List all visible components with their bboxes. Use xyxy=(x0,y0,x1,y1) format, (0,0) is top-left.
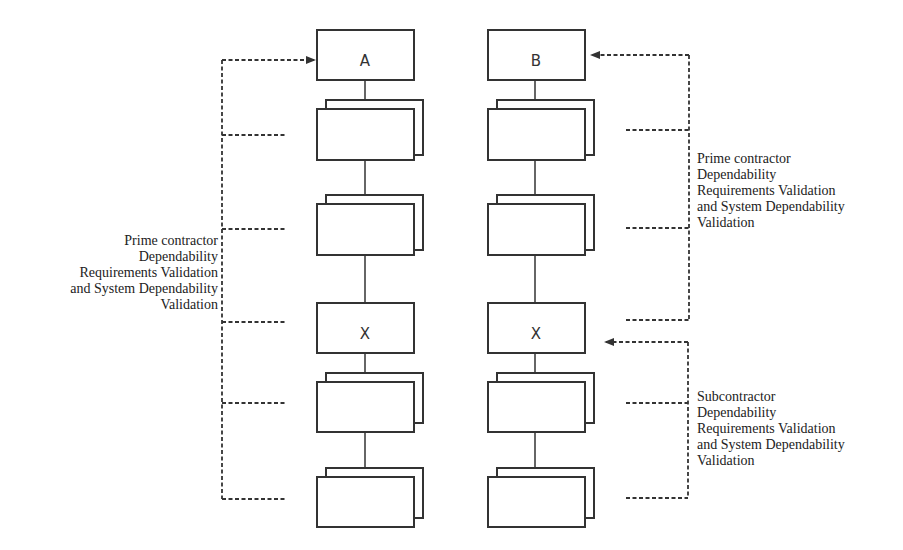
note-line: Dependability xyxy=(697,167,845,183)
stacked-box-right-2 xyxy=(488,195,594,255)
right-prime-contractor-note: Prime contractor Dependability Requireme… xyxy=(697,151,845,231)
stacked-box-right-3 xyxy=(488,373,594,432)
note-line: Prime contractor xyxy=(697,151,845,167)
left-prime-contractor-note: Prime contractor Dependability Requireme… xyxy=(70,233,218,313)
note-line: Requirements Validation xyxy=(697,183,845,199)
note-line: and System Dependability xyxy=(697,199,845,215)
note-line: Subcontractor xyxy=(697,389,845,405)
note-line: Dependability xyxy=(697,405,845,421)
note-line: Validation xyxy=(697,215,845,231)
note-line: Validation xyxy=(70,297,218,313)
stacked-box-left-2 xyxy=(317,195,423,255)
right-column xyxy=(488,30,594,527)
right-prime-validation-bracket xyxy=(592,55,689,320)
note-line: Validation xyxy=(697,453,845,469)
box-x-right-label: X xyxy=(531,325,541,343)
note-line: and System Dependability xyxy=(697,437,845,453)
note-line: Prime contractor xyxy=(70,233,218,249)
note-line: Dependability xyxy=(70,249,218,265)
stacked-box-left-4 xyxy=(317,468,423,527)
box-b-label: B xyxy=(531,52,541,70)
stacked-box-right-1 xyxy=(488,100,594,160)
right-sub-validation-bracket xyxy=(606,342,688,498)
left-column xyxy=(317,30,423,527)
stacked-box-left-1 xyxy=(317,100,423,160)
note-line: Requirements Validation xyxy=(697,421,845,437)
note-line: and System Dependability xyxy=(70,281,218,297)
box-a-label: A xyxy=(360,52,371,70)
stacked-box-right-4 xyxy=(488,468,594,527)
note-line: Requirements Validation xyxy=(70,265,218,281)
stacked-box-left-3 xyxy=(317,373,423,432)
left-validation-bracket xyxy=(222,60,314,499)
box-x-left-label: X xyxy=(360,325,370,343)
right-subcontractor-note: Subcontractor Dependability Requirements… xyxy=(697,389,845,469)
